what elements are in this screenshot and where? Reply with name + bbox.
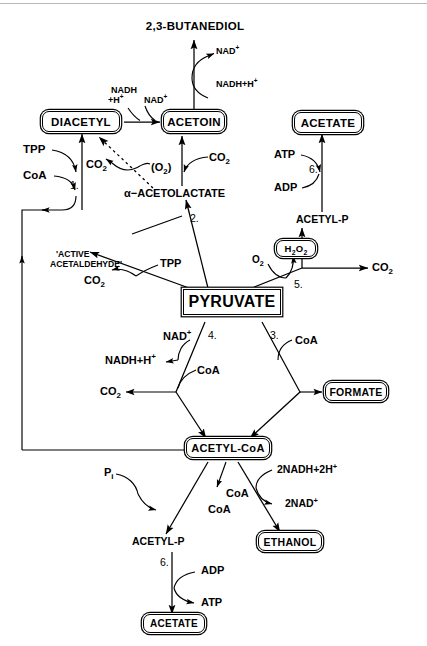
cofactor-nad-pdh: NAD+ bbox=[163, 330, 191, 342]
enzyme-number-5: 5. bbox=[294, 278, 303, 290]
arc-tpp-into-diacetyl bbox=[52, 150, 76, 172]
arc-co2-from-acetoin-step bbox=[184, 157, 208, 172]
cofactor-pi-pta: Pi bbox=[104, 466, 114, 478]
arrow-acetyl-coa-to-acetyl-p-bottom bbox=[166, 462, 208, 534]
top-divider-rule bbox=[0, 3, 427, 4]
cofactor-atp-top: ATP bbox=[274, 148, 295, 160]
arc-coa-into-pfl bbox=[278, 340, 292, 360]
arc-nad-in-diacetyl bbox=[145, 106, 155, 121]
cofactor-nad-diacetyl: NAD+ bbox=[144, 95, 167, 105]
node-formate: FORMATE bbox=[325, 382, 387, 401]
enzyme-number-2: 2. bbox=[190, 212, 199, 224]
arc-nad-out-adh bbox=[256, 488, 272, 504]
feedback-rail-left bbox=[22, 196, 76, 450]
arc-pi-into-pta bbox=[116, 474, 138, 494]
arc-nadh-into-adh bbox=[256, 470, 272, 488]
cofactor-nadh-diacetyl-line2: +H+ bbox=[108, 95, 124, 105]
arc-tpp-into-acetaldehyde bbox=[136, 265, 158, 276]
cofactor-tpp-acetaldehyde: TPP bbox=[160, 257, 181, 269]
node-diacetyl: DIACETYL bbox=[42, 111, 120, 132]
cofactor-co2-pdh: CO2 bbox=[100, 385, 121, 397]
enzyme-number-6-top: 6. bbox=[309, 163, 318, 175]
arc-co2-out-acetaldehyde bbox=[112, 269, 136, 276]
node-acetate-top: ACETATE bbox=[294, 112, 362, 133]
cofactor-tpp-diacetyl: TPP bbox=[23, 143, 45, 155]
cofactor-coa-adh: CoA bbox=[226, 487, 249, 499]
cofactor-adp-bottom: ADP bbox=[201, 564, 224, 576]
cofactor-nadh-pdh: NADH+H+ bbox=[105, 354, 156, 366]
cofactor-nadh-adh: 2NADH+2H+ bbox=[277, 463, 337, 475]
enzyme-number-3: 3. bbox=[270, 329, 279, 341]
arc-o2-into-oxidase bbox=[268, 264, 286, 278]
node-acetyl-coa: ACETYL-CoA bbox=[186, 438, 270, 458]
node-pyruvate: PYRUVATE bbox=[183, 289, 281, 315]
cofactor-coa-pta: CoA bbox=[208, 503, 231, 515]
arc-nad-nadh-butanediol bbox=[192, 56, 208, 98]
arc-nad-into-pdh bbox=[178, 340, 190, 360]
node-active-acetaldehyde-line2: ACETALDEHYDE' bbox=[50, 259, 122, 269]
cofactor-nad-adh: 2NAD+ bbox=[285, 497, 318, 509]
cofactor-o2-diacetyl: (O2) bbox=[151, 161, 171, 173]
node-alpha-acetolactate: α−ACETOLACTATE bbox=[124, 187, 225, 199]
arc-h2o2-out-oxidase bbox=[286, 256, 293, 278]
arc-co2-o2-diacetyl bbox=[112, 163, 150, 170]
arc-atp-bottom bbox=[174, 588, 194, 603]
node-acetate-bottom: ACETATE bbox=[143, 614, 205, 633]
arc-coa-out-pta bbox=[138, 494, 156, 510]
hydrogen-peroxide-formula: H2O2 bbox=[284, 243, 307, 254]
arc-adp-top bbox=[302, 174, 319, 188]
pathway-lines-layer bbox=[0, 0, 427, 646]
cofactor-co2-acetaldehyde: CO2 bbox=[84, 274, 105, 286]
cofactor-coa-diacetyl: CoA bbox=[23, 169, 47, 181]
enzyme-number-4: 4. bbox=[208, 329, 217, 341]
arrow-coa-released-adh bbox=[217, 462, 226, 487]
node-butanediol: 2,3-BUTANEDIOL bbox=[130, 18, 260, 34]
arc-coa-into-pdh bbox=[178, 370, 196, 388]
node-acetyl-p-bottom: ACETYL-P bbox=[132, 535, 185, 547]
pathway-figure: 2,3-BUTANEDIOL DIACETYL ACETOIN ACETATE … bbox=[0, 0, 427, 646]
node-acetoin: ACETOIN bbox=[163, 111, 225, 132]
dashed-arrow-acetolactate-to-diacetyl bbox=[99, 137, 153, 188]
cofactor-co2-right: CO2 bbox=[372, 261, 393, 273]
arc-adp-bottom bbox=[174, 572, 195, 588]
arrowhead-nadh-out-pdh bbox=[166, 360, 178, 362]
cofactor-nadh-butanediol: NADH+H+ bbox=[216, 79, 258, 89]
cofactor-nad-butanediol: NAD+ bbox=[216, 46, 239, 56]
cofactor-co2-acetoin: CO2 bbox=[209, 151, 230, 163]
cofactor-nadh-diacetyl-line1: NADH bbox=[111, 85, 137, 95]
arc-nadh-in-diacetyl bbox=[128, 108, 140, 121]
cofactor-co2-diacetyl: CO2 bbox=[86, 158, 107, 170]
node-active-acetaldehyde-line1: 'ACTIVE bbox=[56, 249, 90, 259]
cofactor-coa-pdh: CoA bbox=[197, 364, 220, 376]
node-acetyl-p-top: ACETYL-P bbox=[296, 213, 349, 225]
arrow-pyruvate-to-active-acetaldehyde bbox=[90, 252, 200, 292]
cofactor-coa-pfl: CoA bbox=[295, 334, 318, 346]
enzyme-number-6-bottom: 6. bbox=[160, 556, 169, 568]
cofactor-atp-bottom: ATP bbox=[201, 596, 222, 608]
connector-branch2 bbox=[132, 216, 182, 234]
node-hydrogen-peroxide: H2O2 bbox=[276, 240, 316, 257]
cofactor-o2-peroxide: O2 bbox=[252, 254, 264, 265]
arrowhead-nad-out-butanediol bbox=[208, 54, 214, 57]
enzyme-number-1: 1. bbox=[70, 179, 79, 191]
cofactor-adp-top: ADP bbox=[274, 181, 297, 193]
node-ethanol: ETHANOL bbox=[258, 532, 322, 551]
